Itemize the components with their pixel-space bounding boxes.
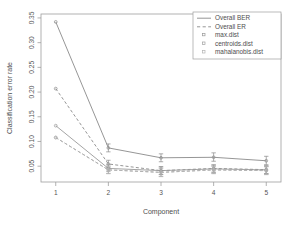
x-axis-tick-label: 4 xyxy=(212,189,216,196)
legend-label-1: Overall BER xyxy=(215,14,251,21)
legend-label-2: Overall ER xyxy=(215,23,246,30)
legend-label-3: max.dist xyxy=(215,31,239,38)
data-point xyxy=(54,87,57,90)
legend-label-4: centroids.dist xyxy=(215,40,253,47)
y-axis-tick-label: 0.25 xyxy=(28,61,35,74)
data-point xyxy=(54,136,57,139)
y-axis-tick-label: 0.10 xyxy=(28,135,35,148)
classification-error-rate-chart: 0.050.100.150.200.250.300.3512345Compone… xyxy=(0,0,290,227)
x-axis-tick-label: 3 xyxy=(159,189,163,196)
y-axis-tick-label: 0.35 xyxy=(28,11,35,24)
chart-container: 0.050.100.150.200.250.300.3512345Compone… xyxy=(0,0,290,227)
x-axis-tick-label: 1 xyxy=(54,189,58,196)
y-axis-tick-label: 0.15 xyxy=(28,110,35,123)
x-axis-label: Component xyxy=(143,208,179,216)
x-axis-tick-label: 2 xyxy=(107,189,111,196)
data-point xyxy=(54,124,57,127)
y-axis-label: Classification error rate xyxy=(6,62,13,134)
y-axis-tick-label: 0.05 xyxy=(28,159,35,172)
y-axis-tick-label: 0.30 xyxy=(28,36,35,49)
y-axis-tick-label: 0.20 xyxy=(28,85,35,98)
x-axis-tick-label: 5 xyxy=(264,189,268,196)
legend-label-5: mahalanobis.dist xyxy=(215,48,263,55)
series-line xyxy=(56,126,267,171)
